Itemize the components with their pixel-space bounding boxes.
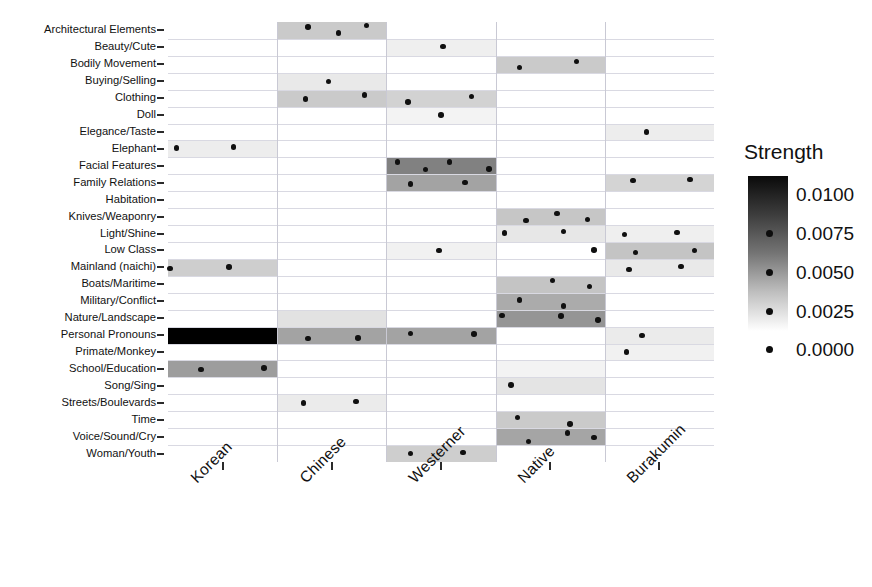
heatmap-cell (386, 90, 495, 107)
legend-tick-label: 0.0100 (796, 184, 854, 206)
data-point (567, 421, 573, 427)
data-point (395, 159, 401, 165)
heatmap-cell (277, 73, 386, 90)
heatmap-cell (496, 225, 605, 242)
y-axis-tick (157, 436, 164, 438)
heatmap-cell (168, 107, 277, 124)
grid-line-horizontal (168, 107, 714, 108)
y-axis-tick (157, 368, 164, 370)
grid-line-vertical (386, 22, 387, 462)
heatmap-cell (277, 56, 386, 73)
data-point (305, 336, 311, 342)
heatmap-cell (496, 22, 605, 39)
heatmap-cell (386, 276, 495, 293)
y-axis-label: Doll (0, 109, 156, 120)
grid-line-horizontal (168, 377, 714, 378)
y-axis-tick (157, 199, 164, 201)
heatmap-cell (605, 73, 714, 90)
heatmap-cell (168, 22, 277, 39)
y-axis-label: Facial Features (0, 160, 156, 171)
heatmap-cell (168, 56, 277, 73)
grid-line-horizontal (168, 140, 714, 141)
y-axis-tick (157, 233, 164, 235)
data-point (486, 166, 492, 172)
heatmap-cell (605, 22, 714, 39)
grid-line-vertical (277, 22, 278, 462)
heatmap-cell (605, 394, 714, 411)
heatmap-cell (386, 327, 495, 344)
heatmap-cell (277, 225, 386, 242)
grid-line-horizontal (168, 394, 714, 395)
data-point (353, 399, 359, 405)
y-axis-tick (157, 351, 164, 353)
data-point (198, 367, 204, 373)
heatmap-cell (277, 377, 386, 394)
grid-line-horizontal (168, 327, 714, 328)
y-axis-label: Boats/Maritime (0, 278, 156, 289)
grid-line-horizontal (168, 157, 714, 158)
legend-tick-label: 0.0050 (796, 262, 854, 284)
y-axis-tick (157, 266, 164, 268)
heatmap-cell (605, 107, 714, 124)
data-point (301, 400, 307, 406)
data-point (460, 450, 466, 456)
heatmap-cell (496, 293, 605, 310)
heatmap-cell (386, 208, 495, 225)
heatmap-cell (168, 276, 277, 293)
heatmap-cell (386, 394, 495, 411)
data-point (499, 313, 505, 319)
heatmap-cell (605, 39, 714, 56)
heatmap-cell (496, 411, 605, 428)
y-axis-tick (157, 385, 164, 387)
y-axis-tick (157, 148, 164, 150)
heatmap-figure: Architectural ElementsBeauty/CuteBodily … (0, 0, 872, 587)
heatmap-cell (168, 327, 277, 344)
heatmap-cell (496, 259, 605, 276)
heatmap-cell (277, 360, 386, 377)
data-point (447, 159, 453, 165)
heatmap-cell (168, 90, 277, 107)
heatmap-cell (277, 174, 386, 191)
y-axis-label: Knives/Weaponry (0, 211, 156, 222)
heatmap-cell (605, 56, 714, 73)
data-point (462, 180, 468, 186)
y-axis-label: Clothing (0, 92, 156, 103)
y-axis-tick (157, 419, 164, 421)
heatmap-cell (386, 377, 495, 394)
y-axis-label: Mainland (naichi) (0, 261, 156, 272)
heatmap-cell (605, 293, 714, 310)
data-point (261, 365, 267, 371)
grid-line-horizontal (168, 259, 714, 260)
y-axis-tick (157, 63, 164, 65)
y-axis-tick (157, 300, 164, 302)
y-axis-label: School/Education (0, 363, 156, 374)
heatmap-cell (496, 360, 605, 377)
heatmap-cell (277, 310, 386, 327)
legend-title: Strength (744, 140, 823, 164)
heatmap-cell (496, 174, 605, 191)
grid-line-horizontal (168, 293, 714, 294)
heatmap-cell (496, 107, 605, 124)
heatmap-cell (496, 191, 605, 208)
grid-line-horizontal (168, 360, 714, 361)
data-point (561, 303, 567, 309)
heatmap-cell (496, 39, 605, 56)
data-point (644, 129, 650, 135)
heatmap-cell (496, 140, 605, 157)
heatmap-cell (605, 157, 714, 174)
heatmap-cell (277, 293, 386, 310)
y-axis-label: Habitation (0, 194, 156, 205)
grid-line-horizontal (168, 191, 714, 192)
heatmap-cell (386, 124, 495, 141)
y-axis-tick (157, 283, 164, 285)
heatmap-cell (605, 208, 714, 225)
data-point (405, 99, 411, 105)
heatmap-cell (605, 259, 714, 276)
y-axis-label: Personal Pronouns (0, 329, 156, 340)
y-axis-label: Architectural Elements (0, 24, 156, 35)
heatmap-cell (168, 124, 277, 141)
grid-line-horizontal (168, 310, 714, 311)
heatmap-cell (168, 310, 277, 327)
data-point (336, 30, 342, 36)
data-point (624, 349, 630, 355)
